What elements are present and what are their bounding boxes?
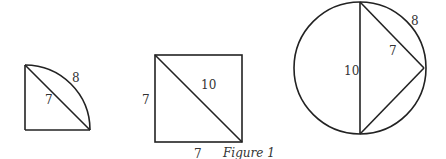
circle-diameter-label: 10 (344, 64, 359, 78)
circle-lower-chord (360, 68, 424, 134)
square-diagonal (155, 55, 242, 142)
circle-arc-label: 8 (411, 14, 419, 28)
figure-caption: Figure 1 (222, 146, 275, 159)
sector-chord (25, 65, 90, 130)
circle-shape: 10 7 8 (294, 2, 426, 134)
square-bottom-label: 7 (194, 147, 202, 159)
square-diagonal-label: 10 (201, 78, 216, 92)
sector-arc-label: 8 (72, 71, 80, 85)
square-left-label: 7 (142, 93, 150, 107)
sector-chord-label: 7 (45, 93, 53, 107)
circle-chord-label: 7 (389, 44, 397, 58)
quarter-circle-shape: 8 7 (25, 65, 90, 130)
circle-upper-chord (360, 2, 424, 68)
figure-1-diagram: 8 7 7 7 10 10 7 8 Figure 1 (0, 0, 446, 159)
square-shape: 7 7 10 (142, 55, 242, 159)
